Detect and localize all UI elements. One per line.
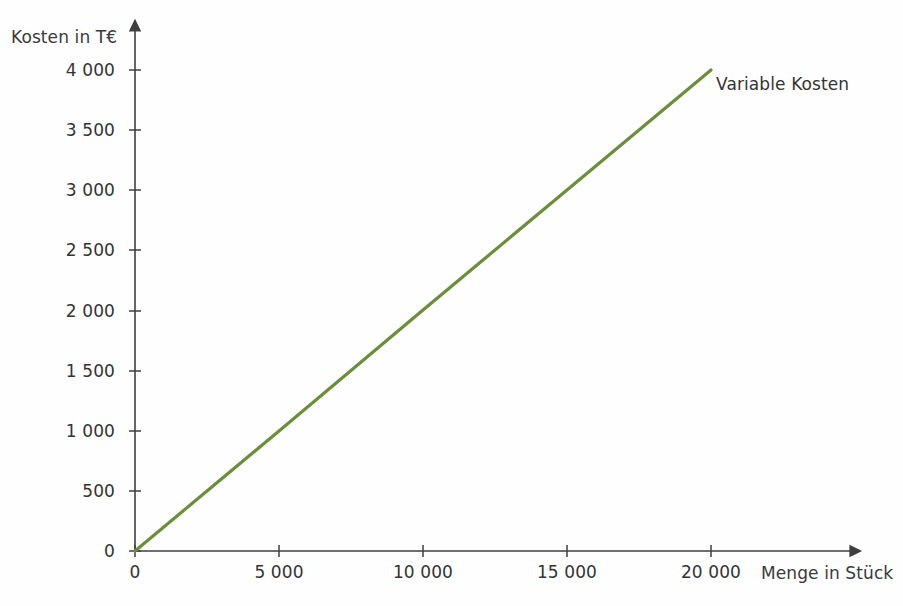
y-tick-label-500: 500 bbox=[53, 481, 115, 501]
x-axis-title: Menge in Stück bbox=[761, 563, 893, 583]
y-tick-label-2500: 2 500 bbox=[53, 240, 115, 260]
x-tick-label-5000: 5 000 bbox=[254, 562, 303, 582]
chart-figure: Kosten in T€ Menge in Stück 0 500 1 000 … bbox=[0, 0, 903, 606]
x-tick-label-10000: 10 000 bbox=[393, 562, 453, 582]
x-tick-label-15000: 15 000 bbox=[537, 562, 597, 582]
series-annotation-variable-kosten: Variable Kosten bbox=[716, 74, 849, 94]
y-tick-label-1000: 1 000 bbox=[53, 421, 115, 441]
x-tick-label-20000: 20 000 bbox=[681, 562, 741, 582]
y-tick-label-1500: 1 500 bbox=[53, 361, 115, 381]
y-tick-label-2000: 2 000 bbox=[53, 301, 115, 321]
y-tick-label-3000: 3 000 bbox=[53, 180, 115, 200]
x-tick-label-0: 0 bbox=[130, 562, 141, 582]
y-tick-label-3500: 3 500 bbox=[53, 120, 115, 140]
y-tick-label-4000: 4 000 bbox=[53, 60, 115, 80]
y-tick-label-0: 0 bbox=[53, 541, 115, 561]
series-line-variable-kosten bbox=[135, 70, 711, 551]
y-axis-title: Kosten in T€ bbox=[11, 27, 117, 47]
